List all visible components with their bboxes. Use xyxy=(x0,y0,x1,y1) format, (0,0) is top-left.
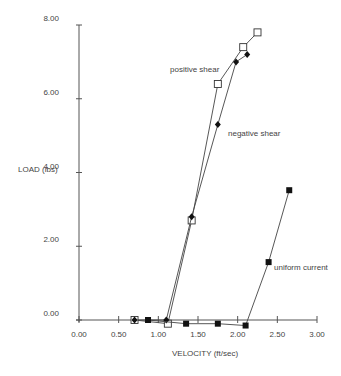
y-tick-label: 8.00 xyxy=(43,14,59,23)
series-annotation: negative shear xyxy=(228,129,281,138)
filled-square-marker xyxy=(183,321,189,327)
open-square-marker xyxy=(254,29,261,36)
open-square-marker xyxy=(214,81,221,88)
series-line-negative-shear xyxy=(135,55,248,321)
y-axis-label: LOAD (lbs) xyxy=(18,165,58,174)
x-tick-label: 1.50 xyxy=(190,330,206,339)
filled-square-marker xyxy=(215,321,221,327)
filled-square-marker xyxy=(145,317,151,323)
load-velocity-chart: 0.002.004.006.008.000.000.501.001.502.00… xyxy=(0,0,341,376)
x-tick-label: 1.00 xyxy=(151,330,167,339)
x-tick-label: 0.50 xyxy=(111,330,127,339)
filled-square-marker xyxy=(286,187,292,193)
series-line-uniform-current xyxy=(148,190,289,325)
diamond-marker xyxy=(244,51,250,58)
y-tick-label: 0.00 xyxy=(43,309,59,318)
series-line-positive-shear xyxy=(135,32,258,323)
y-tick-label: 2.00 xyxy=(43,235,59,244)
filled-square-marker xyxy=(243,323,249,329)
y-tick-label: 6.00 xyxy=(43,88,59,97)
x-axis-label: VELOCITY (ft/sec) xyxy=(172,349,238,358)
series-annotation: positive shear xyxy=(170,65,220,74)
x-tick-label: 3.00 xyxy=(309,330,325,339)
diamond-marker xyxy=(215,121,221,128)
x-tick-label: 0.00 xyxy=(71,330,87,339)
series-annotation: uniform current xyxy=(274,263,329,272)
x-tick-label: 2.00 xyxy=(230,330,246,339)
x-tick-label: 2.50 xyxy=(270,330,286,339)
diamond-marker xyxy=(233,58,239,65)
filled-square-marker xyxy=(266,259,272,265)
open-square-marker xyxy=(240,44,247,51)
